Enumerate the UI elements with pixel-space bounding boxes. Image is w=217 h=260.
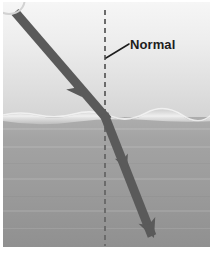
normal-label: Normal bbox=[130, 37, 175, 52]
water-region bbox=[3, 117, 210, 247]
refraction-diagram-canvas bbox=[0, 0, 217, 260]
refraction-diagram-figure: Normal bbox=[0, 0, 217, 260]
air-region bbox=[3, 2, 210, 118]
